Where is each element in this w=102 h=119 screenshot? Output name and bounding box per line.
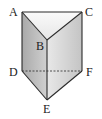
vertex-label-a: A [9, 5, 18, 19]
triangular-prism-diagram: A C B D F E [0, 0, 102, 119]
vertex-label-e: E [43, 102, 50, 116]
vertex-label-f: F [86, 65, 93, 79]
vertex-label-d: D [9, 65, 18, 79]
vertex-label-c: C [85, 5, 93, 19]
vertex-label-b: B [36, 39, 44, 53]
